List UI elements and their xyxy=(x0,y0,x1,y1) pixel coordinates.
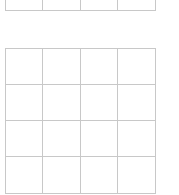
grid-cell xyxy=(6,49,43,85)
grid-cell xyxy=(118,121,155,157)
grid-cell xyxy=(118,49,155,85)
grid-cell xyxy=(81,85,118,121)
grid-cell xyxy=(81,121,118,157)
grid-cell xyxy=(6,0,43,10)
grid-top xyxy=(5,0,156,11)
grid-cell xyxy=(81,157,118,193)
grid-cell xyxy=(6,85,43,121)
grid-cell xyxy=(118,157,155,193)
grid-cell xyxy=(43,49,80,85)
grid-cell xyxy=(6,121,43,157)
grid-cell xyxy=(43,85,80,121)
grid-cell xyxy=(43,0,80,10)
grid-bottom xyxy=(5,48,156,194)
grid-cell xyxy=(43,157,80,193)
grid-cell xyxy=(81,49,118,85)
grid-cell xyxy=(118,0,155,10)
grid-cell xyxy=(81,0,118,10)
grid-cell xyxy=(118,85,155,121)
grid-cell xyxy=(43,121,80,157)
grid-cell xyxy=(6,157,43,193)
